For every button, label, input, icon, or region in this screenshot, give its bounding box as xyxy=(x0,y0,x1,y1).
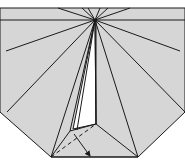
origami-diagram xyxy=(0,0,185,167)
